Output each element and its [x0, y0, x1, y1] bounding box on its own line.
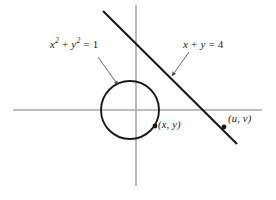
circle-eq-value: 1 [93, 38, 99, 50]
line-eq-equals: = [206, 38, 218, 50]
math-figure: x2 + y2 = 1 x + y = 4 (x, y) (u, v) [0, 0, 276, 200]
circle-eq-equals: = [80, 38, 92, 50]
point-label-uv: (u, v) [228, 113, 251, 124]
line-eq-plus: + [188, 38, 200, 50]
leader-arrow-to-circle [98, 57, 118, 85]
circle-eq-plus: + [59, 38, 71, 50]
point-label-xy: (x, y) [158, 119, 181, 130]
leader-arrow-to-line [172, 52, 189, 76]
line-equation-label: x + y = 4 [183, 38, 224, 50]
line-eq-value: 4 [218, 38, 224, 50]
point-marker-uv [222, 125, 227, 130]
circle-equation-label: x2 + y2 = 1 [50, 38, 98, 50]
figure-canvas [0, 0, 276, 200]
point-marker-xy [153, 124, 158, 129]
